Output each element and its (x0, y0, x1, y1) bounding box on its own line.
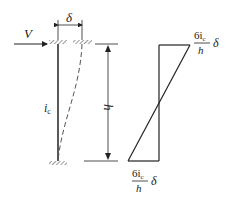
svg-text:δ: δ (213, 36, 219, 50)
svg-text:δ: δ (151, 174, 157, 188)
top-support-displaced (73, 40, 92, 44)
top-support-original (49, 40, 67, 44)
top-moment-label: 6ic h δ (194, 29, 219, 56)
deflected-shape (58, 44, 82, 161)
svg-text:6ic: 6ic (194, 29, 206, 43)
displacement-label: δ (66, 10, 73, 25)
height-dimension (84, 44, 118, 161)
column-moment-diagram: V δ ic h 6ic h δ 6ic h (0, 0, 229, 198)
moment-diagram (128, 45, 190, 161)
bottom-support (49, 161, 67, 165)
svg-text:h: h (136, 182, 142, 194)
height-label: h (101, 104, 116, 111)
bottom-moment-label: 6ic h δ (132, 167, 157, 194)
svg-text:6ic: 6ic (132, 167, 144, 181)
svg-text:h: h (198, 44, 204, 56)
load-label: V (24, 26, 34, 41)
stiffness-label: ic (44, 101, 51, 116)
